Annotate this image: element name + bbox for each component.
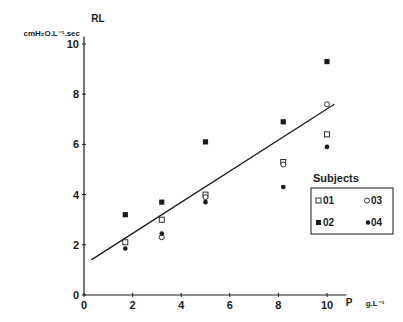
regression-line bbox=[91, 104, 334, 260]
x-tick-label: 4 bbox=[178, 299, 185, 311]
y-tick-label: 2 bbox=[73, 239, 79, 251]
regression-line-path bbox=[91, 104, 334, 260]
legend-filled-square-icon bbox=[316, 220, 321, 225]
point-filled-square-icon bbox=[281, 119, 286, 124]
point-open-square-icon bbox=[123, 240, 128, 245]
point-filled-circle-icon bbox=[123, 246, 128, 251]
point-open-square-icon bbox=[325, 132, 330, 137]
point-filled-circle-icon bbox=[325, 145, 330, 150]
point-open-circle-icon bbox=[203, 195, 208, 200]
legend-open-circle-icon bbox=[365, 198, 370, 203]
legend-label-03: 03 bbox=[371, 195, 383, 206]
legend-label-02: 02 bbox=[323, 217, 335, 228]
y-tick-label: 10 bbox=[67, 38, 79, 50]
point-filled-square-icon bbox=[203, 139, 208, 144]
legend-filled-circle-icon bbox=[366, 220, 371, 225]
scatter-chart: 02468100246810 RL cmH₂O.L⁻¹.sec P g.L⁻¹ … bbox=[0, 0, 403, 322]
x-tick-label: 2 bbox=[130, 299, 136, 311]
y-tick-label: 0 bbox=[73, 289, 79, 301]
y-tick-label: 6 bbox=[73, 138, 79, 150]
point-filled-square-icon bbox=[159, 200, 164, 205]
x-axis-units: g.L⁻¹ bbox=[366, 299, 385, 308]
point-open-circle-icon bbox=[325, 102, 330, 107]
y-axis-units: cmH₂O.L⁻¹.sec bbox=[24, 29, 81, 38]
x-tick-label: 0 bbox=[81, 299, 87, 311]
point-open-square-icon bbox=[159, 217, 164, 222]
point-filled-circle-icon bbox=[281, 185, 286, 190]
x-axis-title: P bbox=[346, 297, 353, 308]
legend-label-04: 04 bbox=[371, 217, 383, 228]
data-points bbox=[123, 59, 330, 251]
legend-label-01: 01 bbox=[323, 195, 335, 206]
axes: 02468100246810 bbox=[67, 36, 347, 311]
legend-open-square-icon bbox=[316, 198, 321, 203]
legend-title: Subjects bbox=[313, 172, 359, 184]
y-axis-title: RL bbox=[91, 13, 104, 24]
y-tick-label: 8 bbox=[73, 88, 79, 100]
point-filled-square-icon bbox=[123, 212, 128, 217]
point-filled-circle-icon bbox=[203, 200, 208, 205]
point-filled-square-icon bbox=[324, 59, 329, 64]
x-tick-label: 8 bbox=[275, 299, 281, 311]
x-tick-label: 10 bbox=[321, 299, 333, 311]
y-tick-label: 4 bbox=[73, 189, 80, 201]
point-filled-circle-icon bbox=[159, 231, 164, 236]
x-tick-label: 6 bbox=[227, 299, 233, 311]
point-open-circle-icon bbox=[281, 162, 286, 167]
